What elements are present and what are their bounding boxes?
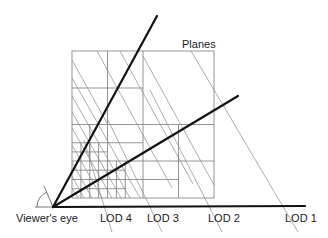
viewers-eye-label: Viewer's eye [16, 212, 78, 224]
eye-angle-mark [35, 186, 53, 207]
planes-label: Planes [182, 38, 216, 50]
lod-3-label: LOD 3 [147, 212, 179, 224]
lod-planes [72, 51, 298, 232]
lod-1-label: LOD 1 [285, 212, 317, 224]
lod-2-label: LOD 2 [208, 212, 240, 224]
lod-4-label: LOD 4 [100, 212, 132, 224]
lod-diagram: Planes Viewer's eye LOD 4 LOD 3 LOD 2 LO… [0, 0, 328, 238]
ray-upper [53, 16, 157, 207]
quadtree-grid [72, 51, 214, 198]
ray-ground [53, 206, 305, 207]
